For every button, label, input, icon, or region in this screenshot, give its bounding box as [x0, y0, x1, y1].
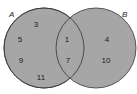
- set-b-element: 10: [102, 56, 111, 65]
- venn-diagram: A B 3 5 9 11 1 7 4 10: [0, 0, 137, 94]
- set-a-element: 11: [37, 73, 46, 82]
- set-a-element: 3: [34, 20, 39, 29]
- set-b-label: B: [122, 10, 128, 19]
- set-a-label: A: [8, 10, 14, 19]
- set-b-element: 4: [105, 35, 110, 44]
- set-a-element: 5: [18, 35, 23, 44]
- intersection-element: 1: [65, 35, 70, 44]
- set-b-circle: [56, 8, 136, 88]
- intersection-element: 7: [66, 56, 71, 65]
- set-a-element: 9: [19, 56, 24, 65]
